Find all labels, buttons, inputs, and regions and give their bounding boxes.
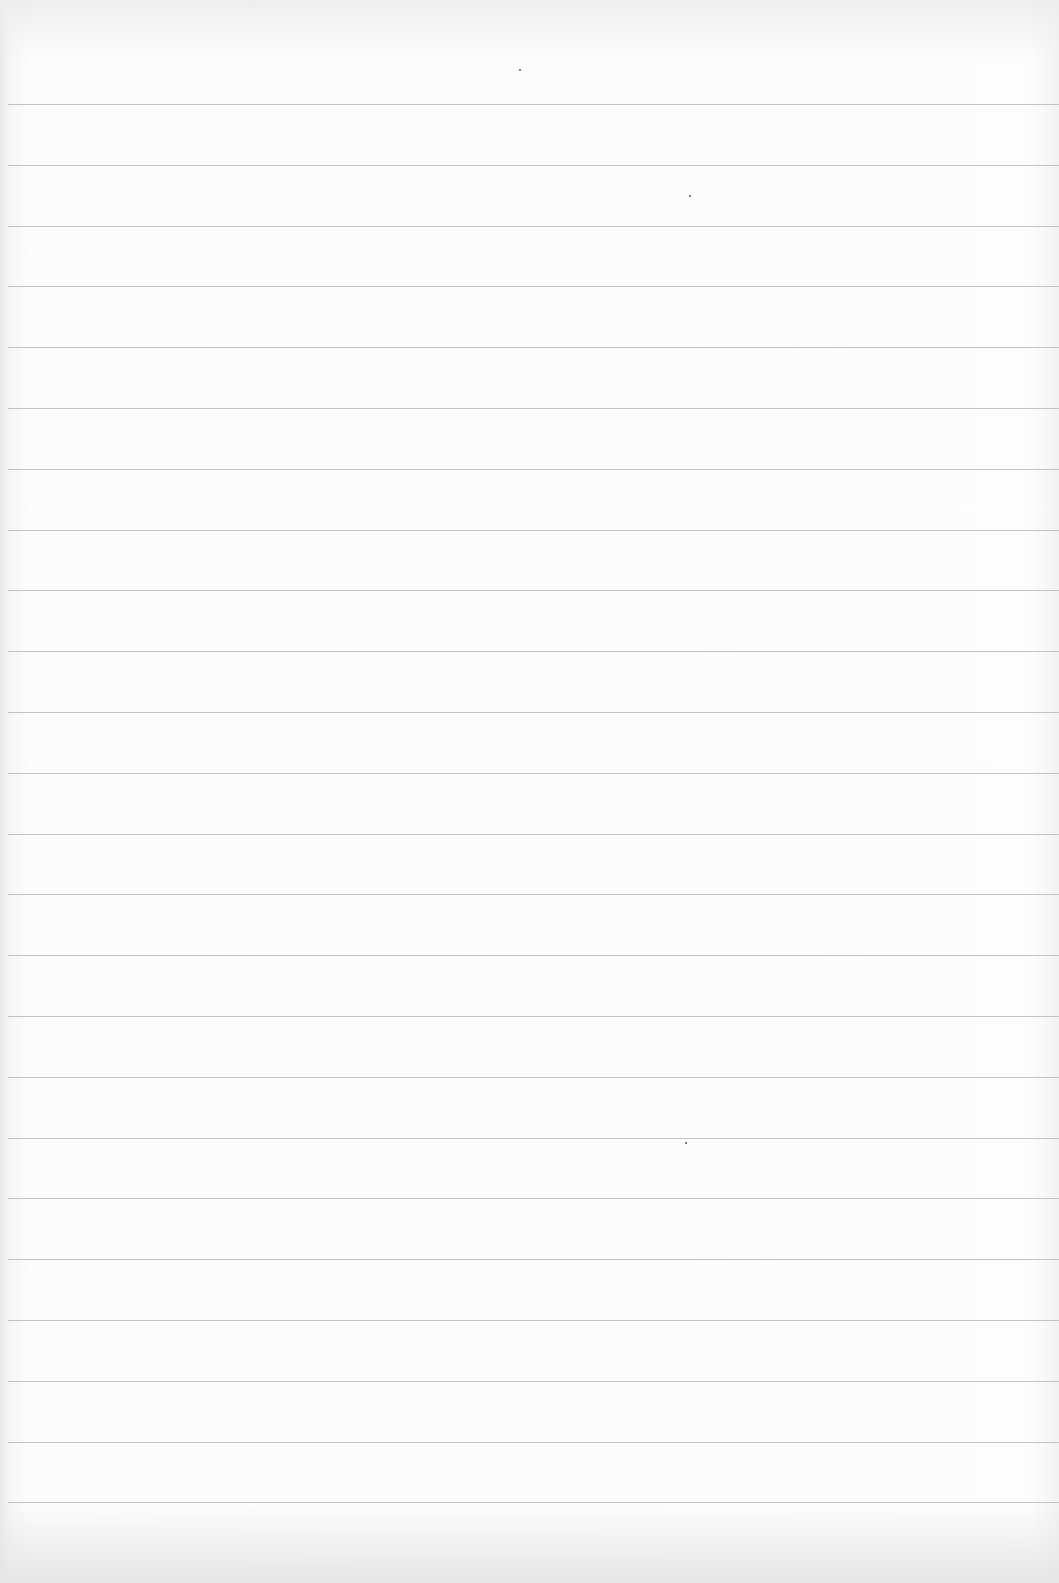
ruled-line	[8, 1381, 1059, 1382]
ruled-line	[8, 712, 1059, 713]
ruled-line	[8, 1198, 1059, 1199]
dust-speck	[685, 1142, 687, 1144]
ruled-line	[8, 1259, 1059, 1260]
ruled-line	[8, 408, 1059, 409]
ruled-line	[8, 530, 1059, 531]
ruled-line	[8, 773, 1059, 774]
ruled-line	[8, 590, 1059, 591]
ruled-line	[8, 286, 1059, 287]
ruled-line	[8, 834, 1059, 835]
ruled-line	[8, 955, 1059, 956]
ruled-line	[8, 1320, 1059, 1321]
ruled-line	[8, 1442, 1059, 1443]
ruled-line	[8, 1502, 1059, 1503]
ruled-line	[8, 894, 1059, 895]
ruled-line	[8, 165, 1059, 166]
dust-speck	[689, 195, 691, 197]
ruled-line	[8, 1138, 1059, 1139]
ruled-line	[8, 1016, 1059, 1017]
ruled-line	[8, 104, 1059, 105]
paper-top-shading	[0, 0, 1059, 60]
ruled-line	[8, 469, 1059, 470]
ruled-line	[8, 1077, 1059, 1078]
paper-bottom-shading	[0, 1503, 1059, 1583]
ruled-line	[8, 226, 1059, 227]
ruled-paper-sheet	[0, 0, 1059, 1583]
dust-speck	[519, 69, 521, 71]
ruled-line	[8, 651, 1059, 652]
ruled-line	[8, 347, 1059, 348]
